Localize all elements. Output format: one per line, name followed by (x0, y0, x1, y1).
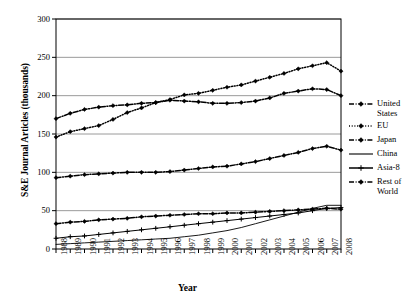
x-tick-label: 1988 (60, 238, 69, 255)
x-tick-label: 1989 (74, 238, 83, 255)
legend-symbol-diamond (348, 177, 374, 187)
x-tick-label: 2001 (245, 238, 254, 255)
x-tick-label: 1995 (160, 238, 169, 255)
x-tick-label: 2004 (288, 238, 297, 255)
legend-label: Asia-8 (377, 163, 416, 173)
x-tick-label: 1992 (117, 238, 126, 255)
y-tick-label: 250 (16, 53, 50, 62)
legend-label: Japan (377, 135, 416, 145)
legend-symbol-plus (348, 163, 374, 173)
x-tick-label: 1997 (188, 238, 197, 255)
legend-item-japan[interactable]: Japan (348, 135, 416, 145)
x-tick-label: 1993 (131, 238, 140, 255)
x-tick-label: 2000 (231, 238, 240, 255)
y-tick-label: 50 (16, 206, 50, 215)
y-tick-label: 100 (16, 168, 50, 177)
legend-label: EU (377, 121, 416, 131)
legend-symbol-line (348, 149, 374, 159)
x-tick-label: 2002 (260, 238, 269, 255)
x-tick-label: 1991 (103, 238, 112, 255)
x-tick-label: 2005 (302, 238, 311, 255)
x-tick-label: 1999 (217, 238, 226, 255)
x-tick-label: 2008 (345, 238, 354, 255)
legend-label: China (377, 149, 416, 159)
legend-symbol-diamond (348, 135, 374, 145)
x-tick-label: 1996 (174, 238, 183, 255)
x-tick-label: 1994 (146, 238, 155, 255)
x-tick-label: 1998 (203, 238, 212, 255)
y-tick-label: 0 (16, 245, 50, 254)
legend-symbol-diamond (348, 99, 374, 109)
legend-item-united-states[interactable]: United States (348, 99, 416, 118)
x-tick-label: 2006 (317, 238, 326, 255)
legend-label: Rest of World (377, 177, 416, 196)
y-tick-label: 150 (16, 130, 50, 139)
legend-item-asia-8[interactable]: Asia-8 (348, 163, 416, 173)
legend-item-eu[interactable]: EU (348, 121, 416, 131)
legend-label: United States (377, 99, 416, 118)
x-tick-label: 1990 (89, 238, 98, 255)
legend-item-rest-of-world[interactable]: Rest of World (348, 177, 416, 196)
legend-symbol-diamond (348, 121, 374, 131)
y-tick-label: 200 (16, 91, 50, 100)
y-tick-label: 300 (16, 15, 50, 24)
x-tick-label: 2007 (331, 238, 340, 255)
chart-container: S&E Journal Articles (thousands) Year 05… (0, 0, 416, 305)
legend-item-china[interactable]: China (348, 149, 416, 159)
x-tick-label: 2003 (274, 238, 283, 255)
